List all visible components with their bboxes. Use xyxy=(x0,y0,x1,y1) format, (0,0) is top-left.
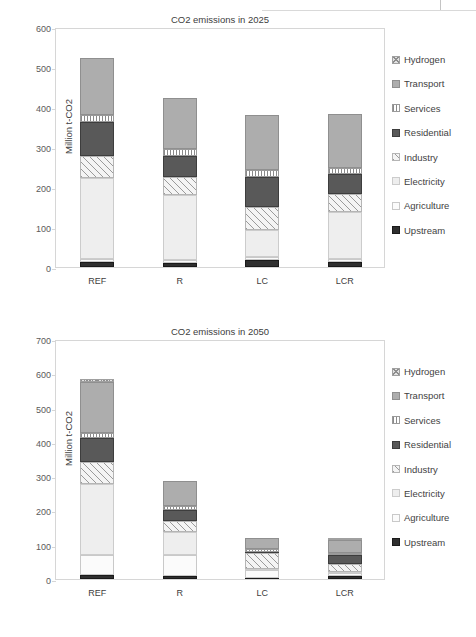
bar-segment-electricity[interactable] xyxy=(80,484,114,555)
bar-segment-transport[interactable] xyxy=(80,58,114,115)
legend-item-upstream[interactable]: Upstream xyxy=(392,225,476,236)
y-axis-tick-mark xyxy=(52,149,56,150)
legend-item-label: Agriculture xyxy=(404,512,449,523)
bar-segment-agriculture[interactable] xyxy=(245,257,279,260)
bar-segment-industry[interactable] xyxy=(328,564,362,572)
y-axis-tick-mark xyxy=(52,269,56,270)
legend-item-label: Industry xyxy=(404,464,438,475)
legend-2050: HydrogenTransportServicesResidentialIndu… xyxy=(392,366,476,561)
bar-segment-industry[interactable] xyxy=(328,194,362,212)
bar-segment-services[interactable] xyxy=(245,170,279,177)
bar-segment-electricity[interactable] xyxy=(328,212,362,258)
legend-item-label: Upstream xyxy=(404,537,445,548)
bar-segment-residential[interactable] xyxy=(328,174,362,194)
bar-segment-transport[interactable] xyxy=(80,382,114,433)
legend-item-hydrogen[interactable]: Hydrogen xyxy=(392,54,476,65)
bar-segment-transport[interactable] xyxy=(245,115,279,171)
bar-segment-industry[interactable] xyxy=(163,521,197,532)
y-axis-tick-label: 300 xyxy=(36,144,51,154)
legend-item-upstream[interactable]: Upstream xyxy=(392,537,476,548)
y-axis-tick-label: 0 xyxy=(46,576,51,586)
legend-item-agriculture[interactable]: Agriculture xyxy=(392,200,476,211)
bar-segment-residential[interactable] xyxy=(163,510,197,521)
bar-segment-agriculture[interactable] xyxy=(328,573,362,577)
bar-segment-transport[interactable] xyxy=(328,114,362,168)
bar-segment-hydrogen[interactable] xyxy=(80,379,114,381)
legend-item-services[interactable]: Services xyxy=(392,415,476,426)
bar-segment-industry[interactable] xyxy=(245,553,279,569)
bar-segment-services[interactable] xyxy=(328,168,362,174)
legend-item-hydrogen[interactable]: Hydrogen xyxy=(392,366,476,377)
legend-item-services[interactable]: Services xyxy=(392,103,476,114)
bar-segment-transport[interactable] xyxy=(163,481,197,506)
bar-segment-upstream[interactable] xyxy=(80,575,114,579)
bar-segment-services[interactable] xyxy=(80,433,114,438)
bar-lc[interactable] xyxy=(245,538,279,579)
y-axis-tick-mark xyxy=(52,29,56,30)
bar-segment-agriculture[interactable] xyxy=(80,555,114,575)
bar-segment-agriculture[interactable] xyxy=(80,259,114,262)
bar-segment-electricity[interactable] xyxy=(163,195,197,260)
bar-r[interactable] xyxy=(163,481,197,579)
bar-segment-agriculture[interactable] xyxy=(328,259,362,262)
legend-item-transport[interactable]: Transport xyxy=(392,78,476,89)
legend-item-electricity[interactable]: Electricity xyxy=(392,488,476,499)
bar-segment-upstream[interactable] xyxy=(328,262,362,267)
bar-segment-transport[interactable] xyxy=(245,538,279,549)
legend-item-label: Industry xyxy=(404,152,438,163)
bar-segment-services[interactable] xyxy=(163,149,197,155)
bar-segment-upstream[interactable] xyxy=(163,263,197,267)
bar-segment-agriculture[interactable] xyxy=(163,260,197,263)
y-axis-tick-mark xyxy=(52,547,56,548)
bar-segment-residential[interactable] xyxy=(328,555,362,563)
bar-lc[interactable] xyxy=(245,115,279,267)
y-axis-tick-label: 600 xyxy=(36,24,51,34)
y-axis-tick-mark xyxy=(52,410,56,411)
y-axis-tick-label: 200 xyxy=(36,184,51,194)
bar-segment-industry[interactable] xyxy=(163,177,197,195)
bar-segment-residential[interactable] xyxy=(163,156,197,177)
bar-segment-upstream[interactable] xyxy=(245,260,279,267)
bar-segment-upstream[interactable] xyxy=(80,262,114,267)
bar-segment-upstream[interactable] xyxy=(328,576,362,579)
bar-segment-transport[interactable] xyxy=(163,98,197,149)
bar-segment-industry[interactable] xyxy=(80,462,114,484)
chart-title: CO2 emissions in 2050 xyxy=(55,326,385,337)
legend-item-residential[interactable]: Residential xyxy=(392,127,476,138)
bar-segment-services[interactable] xyxy=(245,549,279,552)
bar-lcr[interactable] xyxy=(328,114,362,267)
bar-segment-residential[interactable] xyxy=(245,177,279,207)
legend-item-label: Services xyxy=(404,415,440,426)
y-axis-tick-label: 0 xyxy=(46,264,51,274)
legend-item-industry[interactable]: Industry xyxy=(392,152,476,163)
legend-item-agriculture[interactable]: Agriculture xyxy=(392,512,476,523)
bar-segment-electricity[interactable] xyxy=(163,532,197,554)
bar-r[interactable] xyxy=(163,98,197,267)
legend-item-transport[interactable]: Transport xyxy=(392,390,476,401)
agriculture-swatch-icon xyxy=(392,514,400,522)
bar-segment-agriculture[interactable] xyxy=(245,570,279,578)
bar-segment-hydrogen[interactable] xyxy=(328,538,362,540)
bar-segment-residential[interactable] xyxy=(80,122,114,156)
bar-segment-services[interactable] xyxy=(80,115,114,122)
bar-segment-electricity[interactable] xyxy=(245,230,279,257)
x-axis-tick-label-r: R xyxy=(177,588,184,598)
hydrogen-swatch-icon xyxy=(392,368,400,376)
electricity-swatch-icon xyxy=(392,489,400,497)
y-axis-tick-label: 500 xyxy=(36,405,51,415)
bar-segment-transport[interactable] xyxy=(328,540,362,553)
bar-lcr[interactable] xyxy=(328,538,362,579)
bar-segment-electricity[interactable] xyxy=(80,178,114,258)
bar-segment-agriculture[interactable] xyxy=(163,555,197,577)
bar-segment-upstream[interactable] xyxy=(163,576,197,579)
bar-segment-services[interactable] xyxy=(163,506,197,510)
bar-segment-industry[interactable] xyxy=(80,156,114,178)
bar-ref[interactable] xyxy=(80,379,114,579)
legend-item-electricity[interactable]: Electricity xyxy=(392,176,476,187)
bar-segment-services[interactable] xyxy=(328,553,362,555)
legend-item-residential[interactable]: Residential xyxy=(392,439,476,450)
bar-ref[interactable] xyxy=(80,58,114,267)
bar-segment-residential[interactable] xyxy=(80,438,114,462)
legend-item-industry[interactable]: Industry xyxy=(392,464,476,475)
bar-segment-industry[interactable] xyxy=(245,207,279,230)
